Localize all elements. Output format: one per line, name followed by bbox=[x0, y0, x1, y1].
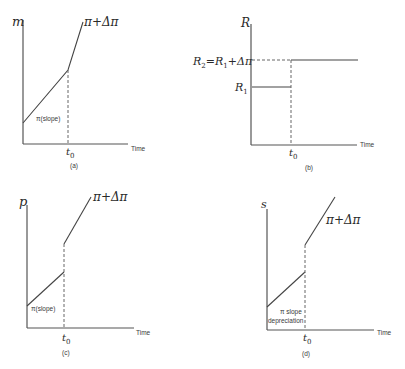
x-axis-label: Time bbox=[360, 141, 375, 148]
panel-caption: (d) bbox=[302, 350, 310, 358]
x-axis-label: Time bbox=[131, 145, 146, 152]
panel-c: p π+Δπ π(slope) Time t0 (c) bbox=[19, 190, 151, 357]
panel-caption: (a) bbox=[70, 162, 78, 170]
t0-label: t0 bbox=[66, 146, 75, 160]
y-axis-label: s bbox=[261, 198, 267, 211]
r2-label: R2=R1+Δπ bbox=[192, 55, 253, 70]
slope-label-line1: π slope bbox=[280, 308, 302, 316]
panel-d: s π+Δπ π slope depreciation Time t0 (d) bbox=[261, 197, 392, 358]
x-axis-label: Time bbox=[136, 329, 151, 336]
top-slope-label: π+Δπ bbox=[83, 15, 120, 29]
top-slope-label: π+Δπ bbox=[92, 190, 129, 204]
top-slope-label: π+Δπ bbox=[325, 213, 362, 227]
panel-caption: (c) bbox=[62, 349, 70, 357]
y-axis-label: m bbox=[12, 14, 24, 29]
lower-growth-line bbox=[267, 272, 305, 307]
x-axis-label: Time bbox=[377, 329, 392, 336]
y-axis-label: R bbox=[240, 16, 250, 30]
y-axis-label: p bbox=[19, 194, 28, 209]
slope-label-line2: depreciation bbox=[268, 317, 304, 325]
t0-label: t0 bbox=[289, 147, 298, 161]
panel-caption: (b) bbox=[305, 164, 313, 172]
growth-line bbox=[23, 22, 83, 123]
slope-label: π(slope) bbox=[36, 115, 60, 123]
slope-label: π(slope) bbox=[31, 305, 55, 313]
t0-label: t0 bbox=[303, 332, 312, 346]
panel-b: R R2=R1+Δπ R1 Time t0 (b) bbox=[192, 16, 375, 172]
lower-growth-line bbox=[27, 272, 64, 306]
figure-canvas: m π+Δπ π(slope) Time t0 (a) R R2=R1+Δπ R… bbox=[0, 0, 405, 369]
t0-label: t0 bbox=[62, 332, 71, 346]
upper-growth-line bbox=[64, 197, 91, 244]
panel-a: m π+Δπ π(slope) Time t0 (a) bbox=[12, 14, 146, 170]
r1-label: R1 bbox=[234, 81, 248, 96]
